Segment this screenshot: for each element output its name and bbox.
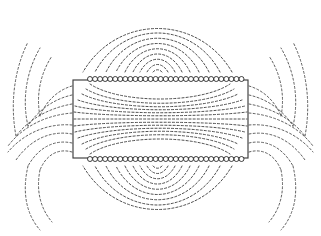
coil-top-ring: [118, 77, 123, 82]
coil-bottom-row: [88, 157, 245, 162]
coil-top-ring: [234, 77, 239, 82]
coil-top-ring: [214, 77, 219, 82]
coil-top-ring: [108, 77, 113, 82]
coil-top-row: [88, 77, 245, 82]
coil-bottom-ring: [183, 157, 188, 162]
coil-top-ring: [224, 77, 229, 82]
coil-bottom-ring: [214, 157, 219, 162]
coil-top-ring: [98, 77, 103, 82]
coil-bottom-ring: [209, 157, 214, 162]
coil-bottom-ring: [153, 157, 158, 162]
coil-bottom-ring: [204, 157, 209, 162]
coil-top-ring: [168, 77, 173, 82]
coil-top-ring: [113, 77, 118, 82]
coil-top-ring: [178, 77, 183, 82]
coil-top-ring: [219, 77, 224, 82]
coil-bottom-ring: [194, 157, 199, 162]
coil-top-ring: [199, 77, 204, 82]
magnetic-field-figure: [0, 0, 321, 236]
coil-bottom-ring: [138, 157, 143, 162]
figure-background: [0, 0, 321, 236]
coil-bottom-ring: [113, 157, 118, 162]
coil-bottom-ring: [239, 157, 244, 162]
coil-top-ring: [143, 77, 148, 82]
coil-top-ring: [209, 77, 214, 82]
coil-top-ring: [153, 77, 158, 82]
coil-bottom-ring: [108, 157, 113, 162]
coil-bottom-ring: [234, 157, 239, 162]
coil-bottom-ring: [143, 157, 148, 162]
coil-top-ring: [194, 77, 199, 82]
coil-top-ring: [148, 77, 153, 82]
coil-bottom-ring: [178, 157, 183, 162]
coil-top-ring: [163, 77, 168, 82]
coil-top-ring: [123, 77, 128, 82]
coil-top-ring: [88, 77, 93, 82]
coil-top-ring: [239, 77, 244, 82]
coil-bottom-ring: [168, 157, 173, 162]
coil-top-ring: [133, 77, 138, 82]
coil-top-ring: [204, 77, 209, 82]
coil-top-ring: [158, 77, 163, 82]
field-diagram-canvas: [0, 0, 321, 236]
coil-bottom-ring: [229, 157, 234, 162]
coil-bottom-ring: [199, 157, 204, 162]
coil-bottom-ring: [224, 157, 229, 162]
coil-top-ring: [128, 77, 133, 82]
coil-top-ring: [229, 77, 234, 82]
coil-bottom-ring: [103, 157, 108, 162]
coil-bottom-ring: [123, 157, 128, 162]
coil-top-ring: [138, 77, 143, 82]
coil-top-ring: [189, 77, 194, 82]
coil-top-ring: [103, 77, 108, 82]
coil-bottom-ring: [93, 157, 98, 162]
coil-bottom-ring: [158, 157, 163, 162]
coil-bottom-ring: [98, 157, 103, 162]
coil-bottom-ring: [219, 157, 224, 162]
coil-bottom-ring: [128, 157, 133, 162]
coil-bottom-ring: [173, 157, 178, 162]
coil-bottom-ring: [148, 157, 153, 162]
coil-top-ring: [93, 77, 98, 82]
coil-bottom-ring: [163, 157, 168, 162]
coil-bottom-ring: [118, 157, 123, 162]
coil-bottom-ring: [88, 157, 93, 162]
coil-top-ring: [173, 77, 178, 82]
coil-bottom-ring: [133, 157, 138, 162]
coil-bottom-ring: [189, 157, 194, 162]
coil-top-ring: [183, 77, 188, 82]
